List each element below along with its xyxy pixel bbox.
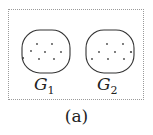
graph-g1	[22, 30, 70, 73]
graph-g1-label: G1	[34, 76, 55, 96]
graph-g2-boundary	[86, 30, 134, 73]
figure-caption: (a)	[0, 106, 153, 126]
graph-g2-vertices	[91, 43, 132, 60]
graph-g1-vertices	[22, 43, 62, 60]
graph-g2-label: G2	[97, 76, 118, 96]
graph-g2	[86, 30, 134, 73]
graph-g1-boundary	[22, 30, 70, 73]
